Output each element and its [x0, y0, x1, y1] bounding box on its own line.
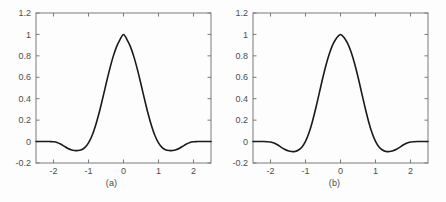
y-tick-label: -0.2 — [232, 158, 248, 168]
axes-frame — [253, 13, 428, 163]
plot-svg-a: -2-1012-0.200.20.40.60.811.2 — [0, 0, 223, 202]
x-tick-label: -1 — [84, 166, 92, 176]
x-tick-label: 0 — [338, 166, 343, 176]
x-tick-label: 1 — [373, 166, 378, 176]
y-tick-label: 0.8 — [18, 51, 31, 61]
x-tick-label: 2 — [408, 166, 413, 176]
x-tick-label: 1 — [156, 166, 161, 176]
x-tick-label: 2 — [191, 166, 196, 176]
data-curve — [253, 34, 428, 151]
y-tick-label: 0.6 — [235, 72, 248, 82]
y-tick-label: 0.2 — [18, 115, 31, 125]
figure-container: -2-1012-0.200.20.40.60.811.2 (a) -2-1012… — [0, 0, 446, 202]
panel-caption-b: (b) — [223, 178, 446, 188]
y-tick-label: 1.2 — [235, 8, 248, 18]
x-tick-label: -2 — [266, 166, 274, 176]
x-tick-label: -1 — [301, 166, 309, 176]
y-tick-label: 0.8 — [235, 51, 248, 61]
y-tick-label: -0.2 — [15, 158, 31, 168]
y-tick-label: 1.2 — [18, 8, 31, 18]
panel-caption-a: (a) — [0, 178, 223, 188]
y-tick-label: 0.4 — [18, 94, 31, 104]
x-tick-label: 0 — [121, 166, 126, 176]
y-tick-label: 0.4 — [235, 94, 248, 104]
y-tick-label: 1 — [26, 30, 31, 40]
x-tick-label: -2 — [49, 166, 57, 176]
y-tick-label: 0.6 — [18, 72, 31, 82]
data-curve — [36, 34, 211, 150]
y-tick-label: 1 — [243, 30, 248, 40]
plot-panel-b: -2-1012-0.200.20.40.60.811.2 (b) — [223, 0, 446, 202]
y-tick-label: 0.2 — [235, 115, 248, 125]
y-tick-label: 0 — [26, 137, 31, 147]
plot-svg-b: -2-1012-0.200.20.40.60.811.2 — [223, 0, 446, 202]
axes-frame — [36, 13, 211, 163]
y-tick-label: 0 — [243, 137, 248, 147]
plot-panel-a: -2-1012-0.200.20.40.60.811.2 (a) — [0, 0, 223, 202]
